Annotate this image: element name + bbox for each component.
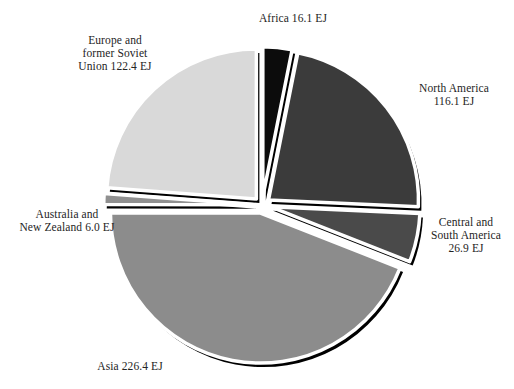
slice-label-asia: Asia 226.4 EJ [60, 360, 200, 373]
slice-label-europe-and-former-soviet-union: Europe and former Soviet Union 122.4 EJ [50, 34, 180, 74]
slice-label-central-and-south-america: Central and South America 26.9 EJ [418, 216, 514, 256]
slice-label-australia-and-new-zealand: Australia and New Zealand 6.0 EJ [2, 208, 132, 234]
slice-label-africa: Africa 16.1 EJ [228, 12, 358, 25]
slice-label-north-america: North America 116.1 EJ [396, 82, 512, 108]
pie-slice-north-america[interactable]: North America 116.1 EJ [269, 53, 419, 207]
pie-chart: Africa 16.1 EJNorth America 116.1 EJCent… [0, 0, 514, 389]
